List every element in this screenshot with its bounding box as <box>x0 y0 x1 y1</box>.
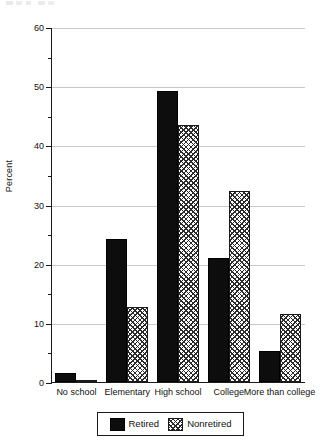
bar-retired <box>259 351 280 382</box>
legend-label-retired: Retired <box>129 419 160 429</box>
y-axis-tick-minor <box>48 176 51 177</box>
y-axis-tick-major <box>46 324 51 325</box>
y-axis-tick-minor <box>48 353 51 354</box>
plot-area: 0102030405060 No schoolElementaryHigh sc… <box>51 28 305 383</box>
chart-legend: Retired Nonretired <box>97 412 244 436</box>
bar-retired <box>157 91 178 382</box>
y-axis-tick-major <box>46 265 51 266</box>
y-axis-tick-minor <box>48 117 51 118</box>
legend-swatch-retired-icon <box>110 418 125 431</box>
x-axis-tick-label: Elementary <box>104 388 150 397</box>
gridline <box>52 28 305 29</box>
y-axis-tick-label: 40 <box>34 142 44 151</box>
y-axis-tick-label: 60 <box>34 24 44 33</box>
y-axis-tick-label: 30 <box>34 201 44 210</box>
scan-edge-artifact <box>6 0 66 7</box>
bar-retired <box>106 239 127 382</box>
y-axis-tick-major <box>46 28 51 29</box>
gridline <box>52 87 305 88</box>
y-axis-tick-label: 20 <box>34 260 44 269</box>
y-axis-title: Percent <box>5 160 14 192</box>
x-axis-tick-label: High school <box>154 388 201 397</box>
bar-chart-figure: Percent 0102030405060 No schoolElementar… <box>0 0 332 448</box>
y-axis-tick-major <box>46 206 51 207</box>
y-axis-tick-minor <box>48 58 51 59</box>
y-axis-tick-label: 50 <box>34 83 44 92</box>
bar-nonretired <box>76 380 97 382</box>
y-axis-tick-major <box>46 383 51 384</box>
y-axis-tick-minor <box>48 235 51 236</box>
bar-nonretired <box>178 125 199 382</box>
y-axis-tick-label: 0 <box>39 379 44 388</box>
x-axis-tick-label: College <box>214 388 245 397</box>
legend-swatch-nonretired-icon <box>168 418 183 431</box>
y-axis-tick-label: 10 <box>34 319 44 328</box>
y-axis-tick-major <box>46 146 51 147</box>
bar-retired <box>208 258 229 382</box>
x-axis-line <box>51 382 305 383</box>
x-axis-tick-label: No school <box>56 388 96 397</box>
bar-retired <box>55 373 76 382</box>
bar-nonretired <box>127 307 148 382</box>
bar-nonretired <box>280 314 301 382</box>
y-axis-tick-minor <box>48 294 51 295</box>
y-axis-tick-major <box>46 87 51 88</box>
legend-label-nonretired: Nonretired <box>187 419 231 429</box>
x-axis-tick-label: More than college <box>244 388 316 397</box>
legend-entry-nonretired: Nonretired <box>168 418 231 431</box>
bar-nonretired <box>229 191 250 382</box>
legend-entry-retired: Retired <box>110 418 160 431</box>
